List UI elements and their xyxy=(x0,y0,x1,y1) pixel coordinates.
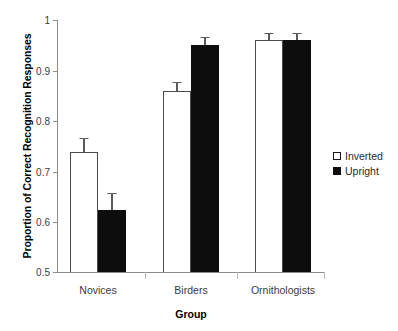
bar-novices-inverted xyxy=(70,152,98,272)
y-axis-title: Proportion of Correct Recognition Respon… xyxy=(21,26,33,266)
y-axis-line xyxy=(57,20,58,273)
error-bar-birders-upright xyxy=(204,37,205,45)
error-cap-ornithologists-inverted xyxy=(265,33,274,34)
bar-novices-upright xyxy=(98,210,126,272)
legend-item-upright: Upright xyxy=(333,163,383,178)
y-tick-label: 0.5 xyxy=(36,267,50,278)
y-tick-label: 1 xyxy=(44,15,50,26)
y-tick-mark xyxy=(53,121,58,122)
bar-birders-inverted xyxy=(163,91,191,272)
y-tick-label: 0.8 xyxy=(36,116,50,127)
y-tick-mark xyxy=(53,172,58,173)
y-tick-label: 0.7 xyxy=(36,166,50,177)
y-tick-mark xyxy=(53,222,58,223)
y-tick-label: 0.9 xyxy=(36,65,50,76)
error-cap-ornithologists-upright xyxy=(293,33,302,34)
x-axis-line xyxy=(57,272,325,273)
x-tick-label-ornithologists: Ornithologists xyxy=(251,284,315,296)
y-tick-mark xyxy=(53,272,58,273)
legend-item-inverted: Inverted xyxy=(333,148,383,163)
error-bar-birders-inverted xyxy=(176,82,177,91)
x-axis-separator xyxy=(237,272,238,279)
chart-legend: Inverted Upright xyxy=(333,148,383,178)
error-cap-novices-upright xyxy=(108,193,117,194)
error-bar-novices-upright xyxy=(111,193,112,210)
x-axis-separator xyxy=(324,272,325,279)
bar-ornithologists-upright xyxy=(283,40,311,272)
legend-swatch-upright-icon xyxy=(333,167,341,175)
y-tick-label: 0.6 xyxy=(36,217,50,228)
x-axis-title: Group xyxy=(57,308,325,320)
legend-label-inverted: Inverted xyxy=(345,150,383,162)
error-cap-birders-upright xyxy=(201,37,210,38)
bar-chart-figure: Proportion of Correct Recognition Respon… xyxy=(0,0,398,331)
error-bar-novices-inverted xyxy=(83,138,84,152)
y-tick-mark xyxy=(53,20,58,21)
error-cap-novices-inverted xyxy=(80,138,89,139)
x-tick-label-birders: Birders xyxy=(174,284,207,296)
bar-birders-upright xyxy=(191,45,219,272)
x-tick-label-novices: Novices xyxy=(79,284,116,296)
x-axis-separator xyxy=(145,272,146,279)
legend-swatch-inverted-icon xyxy=(333,152,341,160)
legend-label-upright: Upright xyxy=(345,165,379,177)
plot-area: 1 0.9 0.8 0.7 0.6 0.5 xyxy=(57,20,325,273)
bar-ornithologists-inverted xyxy=(255,40,283,272)
y-tick-mark xyxy=(53,71,58,72)
error-cap-birders-inverted xyxy=(173,82,182,83)
